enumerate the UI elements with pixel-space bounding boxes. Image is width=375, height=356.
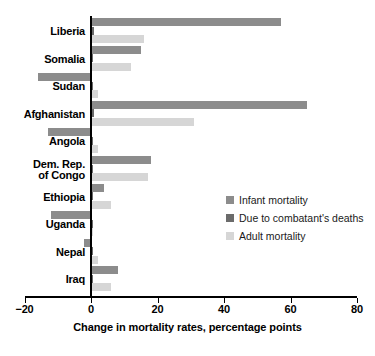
category-label-uganda: Uganda xyxy=(0,219,85,230)
bar-somalia-infant xyxy=(91,46,141,54)
legend-swatch-adult-icon xyxy=(226,232,234,240)
bar-afghanistan-adult xyxy=(91,118,194,126)
category-label-line: Nepal xyxy=(0,247,85,258)
bar-iraq-infant xyxy=(91,266,118,274)
y-axis-zero-line xyxy=(90,16,92,297)
legend-item-combat: Due to combatant's deaths xyxy=(226,212,364,223)
bar-afghanistan-infant xyxy=(91,101,307,109)
category-label-sudan: Sudan xyxy=(0,81,85,92)
category-label-somalia: Somalia xyxy=(0,54,85,65)
category-label-liberia: Liberia xyxy=(0,26,85,37)
plot-area: LiberiaSomaliaSudanAfghanistanAngolaDem.… xyxy=(0,0,375,356)
mortality-change-bar-chart: LiberiaSomaliaSudanAfghanistanAngolaDem.… xyxy=(0,0,375,356)
category-label-afghanistan: Afghanistan xyxy=(0,109,85,120)
bar-somalia-adult xyxy=(91,63,131,71)
legend-swatch-infant-icon xyxy=(226,196,234,204)
legend-swatch-combat-icon xyxy=(226,214,234,222)
x-tick-label-60: 60 xyxy=(271,303,311,315)
x-tick-label-20: 20 xyxy=(138,303,178,315)
category-label-angola: Angola xyxy=(0,136,85,147)
category-label-line: Somalia xyxy=(0,54,85,65)
category-label-line: Uganda xyxy=(0,219,85,230)
bar-liberia-adult xyxy=(91,35,144,43)
category-label-line: of Congo xyxy=(0,170,85,181)
legend-item-adult: Adult mortality xyxy=(226,230,364,241)
category-label-line: Sudan xyxy=(0,81,85,92)
bar-dem-rep-of-congo-adult xyxy=(91,173,148,181)
bar-liberia-infant xyxy=(91,18,281,26)
x-tick-label-40: 40 xyxy=(204,303,244,315)
category-label-line: Angola xyxy=(0,136,85,147)
x-axis-line xyxy=(25,296,357,298)
chart-legend: Infant mortalityDue to combatant's death… xyxy=(226,194,364,248)
x-tick-label--20: −20 xyxy=(5,303,45,315)
bar-iraq-adult xyxy=(91,283,111,291)
category-label-line: Dem. Rep. xyxy=(0,159,85,170)
x-tick-label-0: 0 xyxy=(71,303,111,315)
category-label-ethiopia: Ethiopia xyxy=(0,192,85,203)
category-label-nepal: Nepal xyxy=(0,247,85,258)
category-label-line: Ethiopia xyxy=(0,192,85,203)
legend-item-infant: Infant mortality xyxy=(226,194,364,205)
category-label-iraq: Iraq xyxy=(0,274,85,285)
legend-label: Adult mortality xyxy=(239,230,306,242)
legend-label: Due to combatant's deaths xyxy=(239,212,364,224)
legend-label: Infant mortality xyxy=(239,194,308,206)
bar-dem-rep-of-congo-infant xyxy=(91,156,151,164)
x-tick-label-80: 80 xyxy=(337,303,375,315)
category-label-line: Afghanistan xyxy=(0,109,85,120)
bar-ethiopia-adult xyxy=(91,201,111,209)
category-label-dem-rep-of-congo: Dem. Rep.of Congo xyxy=(0,159,85,181)
category-label-line: Liberia xyxy=(0,26,85,37)
x-axis-title: Change in mortality rates, percentage po… xyxy=(0,321,375,333)
category-label-line: Iraq xyxy=(0,274,85,285)
bar-ethiopia-infant xyxy=(91,184,104,192)
